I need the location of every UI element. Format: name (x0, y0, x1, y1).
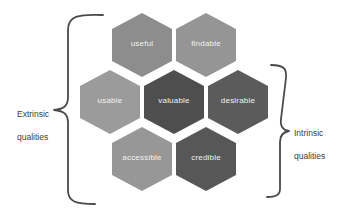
hexagon-credible-label: credible (191, 153, 221, 162)
hexagon-credible: credible (176, 127, 236, 191)
ux-honeycomb-diagram: Extrinsic qualities Intrinsic qualities … (0, 0, 340, 212)
intrinsic-qualities-label: Intrinsic qualities (294, 117, 338, 174)
hexagon-usable: usable (80, 70, 140, 134)
extrinsic-label-line2: qualities (17, 132, 61, 143)
hexagon-accessible: accessible (112, 127, 172, 191)
hexagon-accessible-label: accessible (122, 153, 161, 162)
hexagon-useful-label: useful (131, 39, 154, 48)
right-curly-brace (267, 65, 289, 197)
hexagon-usable-label: usable (98, 96, 123, 105)
hexagon-valuable-label: valuable (158, 96, 189, 105)
extrinsic-label-line1: Extrinsic (17, 109, 61, 120)
hexagon-findable: findable (176, 13, 236, 77)
hexagon-valuable: valuable (144, 70, 204, 134)
intrinsic-label-line2: qualities (294, 151, 338, 162)
extrinsic-qualities-label: Extrinsic qualities (17, 98, 61, 155)
intrinsic-label-line1: Intrinsic (294, 128, 338, 139)
hexagon-desirable: desirable (208, 70, 268, 134)
hexagon-findable-label: findable (191, 39, 221, 48)
hexagon-useful: useful (112, 13, 172, 77)
hexagon-desirable-label: desirable (221, 96, 255, 105)
